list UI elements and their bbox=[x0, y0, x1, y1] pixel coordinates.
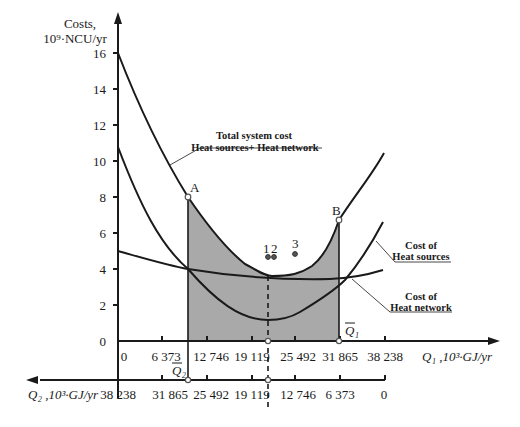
point-2-label: 2 bbox=[271, 241, 278, 256]
x-bottom-tick-31865: 31 865 bbox=[152, 387, 188, 402]
y-tick-labels: 0 2 4 6 8 10 12 14 16 bbox=[93, 46, 107, 349]
cost-chart: 0 2 4 6 8 10 12 14 16 Costs, 10⁹·NCU/yr … bbox=[0, 0, 520, 427]
y-tick-10: 10 bbox=[93, 154, 106, 169]
x-top-tick-31865: 31 865 bbox=[322, 349, 358, 364]
y-tick-14: 14 bbox=[93, 82, 107, 97]
x-top-tick-38238: 38 238 bbox=[367, 349, 403, 364]
x-bottom-tick-labels: 38 238 31 865 25 492 19 119 12 746 6 373… bbox=[100, 387, 387, 402]
x-top-tick-labels: 0 6 373 12 746 19 119 25 492 31 865 38 2… bbox=[121, 349, 403, 364]
point-a-marker bbox=[185, 194, 191, 200]
point-b-marker bbox=[336, 217, 342, 223]
heat-sources-annotation-line2: Heat sources bbox=[392, 251, 449, 262]
total-annotation-line1: Total system cost bbox=[216, 130, 293, 141]
optimum-axis-marker-top bbox=[265, 338, 270, 343]
y-tick-6: 6 bbox=[100, 226, 107, 241]
x-bottom-tick-12746: 12 746 bbox=[280, 387, 316, 402]
point-3-label: 3 bbox=[292, 236, 299, 251]
point-a-label: A bbox=[190, 180, 200, 195]
x-bottom-tick-6373: 6 373 bbox=[325, 387, 354, 402]
q1-bar-axis-marker bbox=[336, 338, 341, 343]
y-tick-2: 2 bbox=[100, 298, 107, 313]
y-tick-4: 4 bbox=[100, 262, 107, 277]
x-axis-q1-arrow-icon bbox=[488, 337, 500, 345]
x-top-tick-0: 0 bbox=[121, 349, 128, 364]
y-tick-0: 0 bbox=[100, 334, 107, 349]
curve-total-cost bbox=[118, 53, 384, 276]
x-axis-q2-title: Q₂ ,10³·GJ/yr bbox=[28, 387, 99, 402]
heat-network-annotation-line2: Heat network bbox=[390, 302, 452, 313]
total-annotation-line2: Heat sources+ Heat network bbox=[191, 142, 319, 153]
x-axis-q1-title: Q₁ ,10³·GJ/yr bbox=[422, 349, 493, 364]
y-axis-title-line2: 10⁹·NCU/yr bbox=[43, 31, 107, 46]
y-tick-8: 8 bbox=[100, 190, 107, 205]
x-top-tick-12746: 12 746 bbox=[193, 349, 229, 364]
q2-bar-axis-marker bbox=[185, 377, 190, 382]
y-tick-16: 16 bbox=[93, 46, 107, 61]
point-1-label: 1 bbox=[263, 241, 270, 256]
x-top-tick-19119: 19 119 bbox=[234, 349, 269, 364]
x-bottom-tick-19119: 19 119 bbox=[234, 387, 269, 402]
x-bottom-tick-38238: 38 238 bbox=[100, 387, 136, 402]
q2-bar-label: Q₂ bbox=[172, 363, 186, 378]
x-bottom-tick-25492: 25 492 bbox=[193, 387, 229, 402]
x-top-tick-6373: 6 373 bbox=[151, 349, 180, 364]
y-tick-12: 12 bbox=[93, 118, 106, 133]
x-bottom-tick-0: 0 bbox=[381, 387, 388, 402]
y-axis-arrow-icon bbox=[114, 12, 122, 24]
point-3-marker bbox=[293, 252, 298, 257]
optimum-axis-marker-bottom bbox=[265, 377, 270, 382]
heat-sources-annotation-line1: Cost of bbox=[405, 240, 437, 251]
point-b-label: B bbox=[332, 203, 341, 218]
q1-bar-label: Q₁ bbox=[345, 323, 359, 338]
heat-network-annotation-line1: Cost of bbox=[405, 291, 437, 302]
x-axis-q2-arrow-icon bbox=[26, 376, 38, 384]
x-top-tick-25492: 25 492 bbox=[280, 349, 316, 364]
y-axis-title-line1: Costs, bbox=[64, 16, 96, 31]
